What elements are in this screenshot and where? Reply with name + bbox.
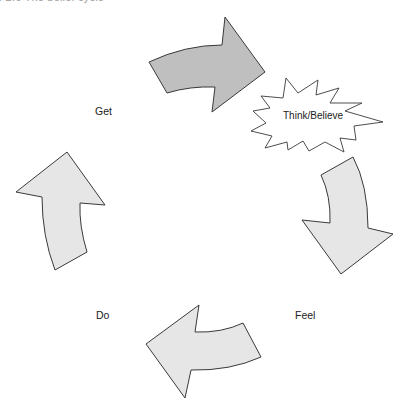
stage-label-think-believe: Think/Believe <box>283 110 343 121</box>
arrow-feel-to-do <box>146 305 261 398</box>
stage-label-do: Do <box>96 309 109 321</box>
belief-cycle-diagram <box>0 0 408 412</box>
arrow-do-to-get <box>16 152 105 270</box>
stage-label-get: Get <box>95 105 112 117</box>
arrow-think-to-feel <box>302 157 393 274</box>
stage-label-feel: Feel <box>295 309 315 321</box>
arrow-get-to-think <box>149 17 265 112</box>
